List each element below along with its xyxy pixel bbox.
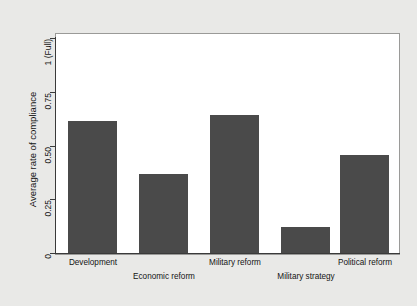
bar-development[interactable] — [68, 121, 117, 253]
x-tick-label-military-reform: Military reform — [209, 258, 261, 267]
x-tick-label-military-strategy: Military strategy — [277, 272, 334, 281]
chart-screenshot: 0 0.25 0.50 0.75 1 (Full) Average rate o… — [0, 0, 417, 306]
bar-military-strategy[interactable] — [281, 227, 330, 253]
x-tick-label-political-reform: Political reform — [338, 258, 392, 267]
bar-economic-reform[interactable] — [139, 174, 188, 253]
bar-political-reform[interactable] — [340, 155, 389, 253]
x-tick-label-development: Development — [69, 258, 117, 267]
x-tick-label-economic-reform: Economic reform — [133, 272, 195, 281]
bar-military-reform[interactable] — [210, 115, 259, 253]
